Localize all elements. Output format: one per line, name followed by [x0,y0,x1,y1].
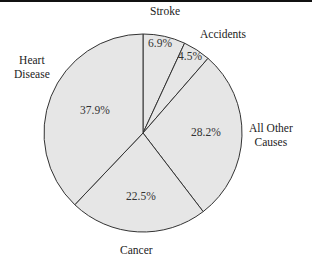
label-cancer: Cancer [120,243,153,257]
label-other-line2: Causes [249,135,293,149]
label-stroke: Stroke [150,4,180,18]
pct-stroke: 6.9% [148,37,172,49]
label-heart-disease: Heart Disease [14,53,50,81]
pct-accidents: 4.5% [178,50,202,62]
pct-heart: 37.9% [80,104,110,116]
pct-other: 28.2% [191,126,221,138]
label-heart-line1: Heart [14,53,50,67]
label-all-other-causes: All Other Causes [249,121,293,149]
label-accidents: Accidents [200,27,246,41]
label-heart-line2: Disease [14,67,50,81]
label-other-line1: All Other [249,121,293,135]
pct-cancer: 22.5% [126,190,156,202]
